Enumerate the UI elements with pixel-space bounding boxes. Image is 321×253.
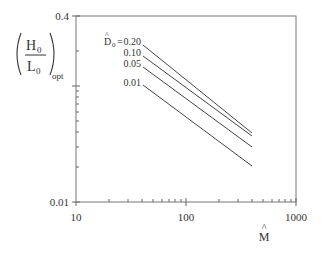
x-tick-100: 100 (178, 211, 195, 223)
y-tick-top: 0.4 (55, 10, 69, 22)
left-paren (17, 33, 21, 75)
y-title-denominator-sub: 0 (36, 66, 41, 76)
series-line-0.05 (143, 67, 252, 147)
series-line-0.20 (143, 45, 252, 133)
series-prefix-eq: = (117, 36, 123, 47)
y-title-numerator-sub: 0 (37, 45, 42, 55)
series-prefix-sub: 0 (112, 41, 116, 49)
x-tick-1000: 1000 (285, 211, 308, 223)
y-axis-title: H 0 L 0 opt (17, 33, 64, 81)
series-lines (143, 45, 252, 166)
series-label-0.20: 0.20 (124, 36, 142, 47)
series-labels: D ^ 0 = 0.20 0.10 0.05 0.01 (104, 31, 141, 88)
y-title-denominator: L (27, 59, 36, 74)
series-label-0.01: 0.01 (124, 77, 142, 88)
series-label-0.10: 0.10 (124, 47, 142, 58)
x-axis-title: M (259, 230, 270, 244)
y-tick-bottom: 0.01 (50, 196, 69, 208)
x-axis-ticks (76, 198, 296, 206)
chart: 0.4 0.01 10 100 1000 ^ M H 0 L 0 opt D ^… (0, 0, 321, 253)
series-prefix-hat: ^ (105, 31, 109, 40)
series-line-0.10 (143, 56, 252, 136)
series-line-0.01 (143, 85, 252, 166)
series-label-0.05: 0.05 (124, 58, 142, 69)
x-tick-10: 10 (71, 211, 83, 223)
y-title-numerator: H (26, 38, 36, 53)
y-title-subscript: opt (52, 71, 64, 81)
right-paren (50, 33, 54, 75)
